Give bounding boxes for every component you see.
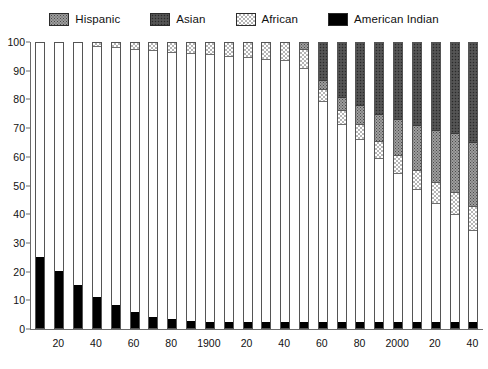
x-axis-tick-label: 2000 [385, 337, 408, 349]
bar-segment-african [394, 156, 402, 174]
stacked-bar[interactable] [35, 42, 45, 329]
stacked-bar[interactable] [111, 42, 121, 329]
stacked-bar[interactable] [450, 42, 460, 329]
stacked-bar[interactable] [337, 42, 347, 329]
bar-slot [351, 42, 370, 329]
bar-segment-hispanic [394, 120, 402, 156]
x-axis-slot [143, 331, 162, 351]
bar-segment-african [300, 50, 308, 69]
bar-slot [125, 42, 144, 329]
x-axis-slot: 80 [350, 331, 369, 351]
bar-segment-african [244, 43, 252, 58]
x-axis-slot: 40 [275, 331, 294, 351]
bar-slot [276, 42, 295, 329]
stacked-bar[interactable] [167, 42, 177, 329]
bar-segment-white [262, 60, 270, 323]
x-axis-slot: 2000 [388, 331, 407, 351]
bar-segment-african [451, 193, 459, 215]
stacked-bar[interactable] [431, 42, 441, 329]
bar-slot [332, 42, 351, 329]
x-axis-tick-label: 1900 [197, 337, 220, 349]
bar-segment-hispanic [319, 81, 327, 90]
y-axis-tick-label: 0 [19, 323, 25, 335]
stacked-bar[interactable] [280, 42, 290, 329]
bar-segment-african [319, 90, 327, 102]
x-axis-slot [30, 331, 49, 351]
stacked-bar[interactable] [468, 42, 478, 329]
bar-segment-hispanic [338, 98, 346, 112]
stacked-bar[interactable] [186, 42, 196, 329]
bar-segment-white [112, 48, 120, 305]
stacked-bar[interactable] [205, 42, 215, 329]
x-axis-slot: 60 [312, 331, 331, 351]
x-axis-slot: 60 [124, 331, 143, 351]
stacked-bar[interactable] [299, 42, 309, 329]
y-axis-tick-label: 50 [13, 180, 25, 192]
bar-segment-amerindian [149, 317, 157, 328]
stacked-bar[interactable] [355, 42, 365, 329]
bar-segment-asian [394, 43, 402, 120]
bar-slot [200, 42, 219, 329]
x-axis-slot: 20 [49, 331, 68, 351]
bar-segment-amerindian [300, 322, 308, 328]
stacked-bar[interactable] [243, 42, 253, 329]
legend-label: Asian [176, 13, 205, 25]
y-axis-tick-label: 20 [13, 266, 25, 278]
bar-slot [238, 42, 257, 329]
x-axis-tick-label: 80 [165, 337, 177, 349]
bar-segment-amerindian [469, 322, 477, 328]
bar-segment-african [338, 111, 346, 125]
bar-segment-white [168, 53, 176, 320]
stacked-bar[interactable] [73, 42, 83, 329]
bar-segment-hispanic [356, 106, 364, 125]
bar-segment-white [74, 43, 82, 285]
bar-segment-white [225, 57, 233, 323]
bar-slot [50, 42, 69, 329]
bar-segment-hispanic [300, 43, 308, 50]
bar-segment-african [187, 43, 195, 54]
stacked-bar[interactable] [130, 42, 140, 329]
bar-slot [257, 42, 276, 329]
stacked-bar[interactable] [148, 42, 158, 329]
stacked-bar[interactable] [393, 42, 403, 329]
x-axis-slot [407, 331, 426, 351]
stacked-bar[interactable] [374, 42, 384, 329]
legend-swatch-amerindian-icon [328, 13, 348, 26]
bar-segment-white [432, 204, 440, 322]
bar-segment-hispanic [413, 126, 421, 171]
chart-root: HispanicAsianAfricanAmerican Indian 1009… [0, 0, 488, 369]
legend-item-amerindian: American Indian [328, 13, 439, 26]
bar-segment-asian [413, 43, 421, 126]
legend-swatch-asian-icon [150, 13, 170, 26]
stacked-bar[interactable] [261, 42, 271, 329]
stacked-bar[interactable] [318, 42, 328, 329]
bar-slot [69, 42, 88, 329]
bar-segment-white [206, 55, 214, 322]
bar-group [31, 42, 483, 329]
stacked-bar[interactable] [412, 42, 422, 329]
y-axis-tick-label: 80 [13, 93, 25, 105]
legend-label: American Indian [354, 13, 439, 25]
x-axis-slot [68, 331, 87, 351]
x-axis-slot [105, 331, 124, 351]
stacked-bar[interactable] [92, 42, 102, 329]
bar-slot [87, 42, 106, 329]
bar-segment-asian [469, 43, 477, 143]
y-axis: 1009080706050403020100 [0, 42, 30, 330]
bar-segment-african [131, 43, 139, 50]
bar-segment-hispanic [451, 134, 459, 193]
bar-segment-amerindian [262, 322, 270, 328]
bar-segment-african [281, 43, 289, 61]
x-axis: 2040608019002040608020002040 [30, 331, 482, 351]
stacked-bar[interactable] [224, 42, 234, 329]
x-axis-slot: 40 [463, 331, 482, 351]
bar-slot [445, 42, 464, 329]
stacked-bar[interactable] [54, 42, 64, 329]
bar-segment-white [187, 54, 195, 321]
bar-segment-white [300, 69, 308, 322]
bar-segment-african [206, 43, 214, 55]
bar-segment-white [149, 51, 157, 317]
y-axis-tick-label: 30 [13, 237, 25, 249]
bar-segment-african [375, 142, 383, 159]
x-axis-slot: 1900 [199, 331, 218, 351]
